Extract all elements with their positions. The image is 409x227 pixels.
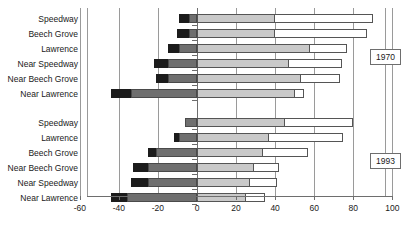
segment-mid-negative [131,89,197,98]
callout-year-1970: 1970 [370,49,401,65]
segment-dark-negative [174,133,180,142]
category-label: Near Beech Grove [8,163,78,173]
category-label: Speedway [38,118,78,128]
segment-light-positive [197,74,301,83]
x-tick-40 [275,196,276,200]
bar-row [87,74,392,83]
segment-dark-negative [148,148,156,157]
bar-row [87,29,392,38]
category-label: Near Beech Grove [8,74,78,84]
category-label: Lawrence [41,133,78,143]
plot-area [87,8,392,196]
segment-mid-negative [189,29,197,38]
bar-row [87,118,392,127]
category-label-column: SpeedwayBeech GroveLawrenceNear Speedway… [0,0,84,227]
segment-light-positive [197,148,263,157]
segment-light-positive [197,89,295,98]
category-label: Near Speedway [18,59,78,69]
category-tick [192,25,197,26]
segment-mid-negative [148,163,197,172]
segment-dark-negative [133,163,149,172]
category-tick [192,159,197,160]
category-tick [192,55,197,56]
segment-mid-negative [179,133,197,142]
category-label: Near Lawrence [20,193,78,203]
segment-mid-negative [189,14,197,23]
category-tick [192,100,197,101]
segment-dark-negative [179,14,189,23]
category-tick [192,174,197,175]
segment-mid-negative [185,118,197,127]
x-tick-label--20: -20 [143,203,173,213]
x-tick-60 [314,196,315,200]
x-tick--20 [158,196,159,200]
segment-mid-negative [156,148,197,157]
category-label: Near Speedway [18,178,78,188]
callout-year-1993: 1993 [370,153,401,169]
x-tick-label--40: -40 [104,203,134,213]
gridline--60 [80,8,81,196]
x-tick-label-40: 40 [260,203,290,213]
category-label: Beech Grove [28,148,78,158]
x-tick-label-20: 20 [221,203,251,213]
segment-dark-negative [111,89,131,98]
bar-row [87,178,392,187]
x-tick-label-60: 60 [299,203,329,213]
segment-dark-negative [156,74,168,83]
segment-light-positive [197,118,285,127]
category-label: Lawrence [41,44,78,54]
x-tick-0 [197,196,198,200]
x-axis-line [87,196,392,197]
segment-light-positive [197,178,250,187]
category-tick [192,70,197,71]
segment-dark-negative [154,59,168,68]
category-label: Beech Grove [28,29,78,39]
segment-mid-negative [148,178,197,187]
bar-row [87,133,392,142]
bar-row [87,14,392,23]
bar-row [87,59,392,68]
category-tick [192,189,197,190]
segment-mid-negative [168,59,197,68]
category-tick [192,144,197,145]
segment-light-positive [197,59,289,68]
x-tick-20 [236,196,237,200]
category-label: Speedway [38,14,78,24]
segment-dark-negative [177,29,189,38]
segment-dark-negative [131,178,149,187]
segment-light-positive [197,29,275,38]
x-tick--40 [119,196,120,200]
x-tick-80 [353,196,354,200]
x-tick-label-100: 100 [377,203,407,213]
segment-dark-negative [168,44,180,53]
segment-light-positive [197,44,310,53]
x-tick-100 [392,196,393,200]
segment-mid-negative [127,193,197,202]
segment-light-positive [197,193,246,202]
bar-chart: SpeedwayBeech GroveLawrenceNear Speedway… [0,0,409,227]
bar-row [87,148,392,157]
segment-light-positive [197,163,254,172]
category-tick [192,85,197,86]
bar-row [87,44,392,53]
x-tick-label--60: -60 [65,203,95,213]
x-tick-label-80: 80 [338,203,368,213]
category-label: Near Lawrence [20,89,78,99]
bar-row [87,89,392,98]
segment-light-positive [197,133,269,142]
x-tick-label-0: 0 [182,203,212,213]
x-tick--60 [80,196,81,200]
bar-row [87,193,392,202]
segment-light-positive [197,14,275,23]
segment-mid-negative [179,44,197,53]
category-tick [192,40,197,41]
bar-row [87,163,392,172]
segment-mid-negative [168,74,197,83]
category-tick [192,129,197,130]
